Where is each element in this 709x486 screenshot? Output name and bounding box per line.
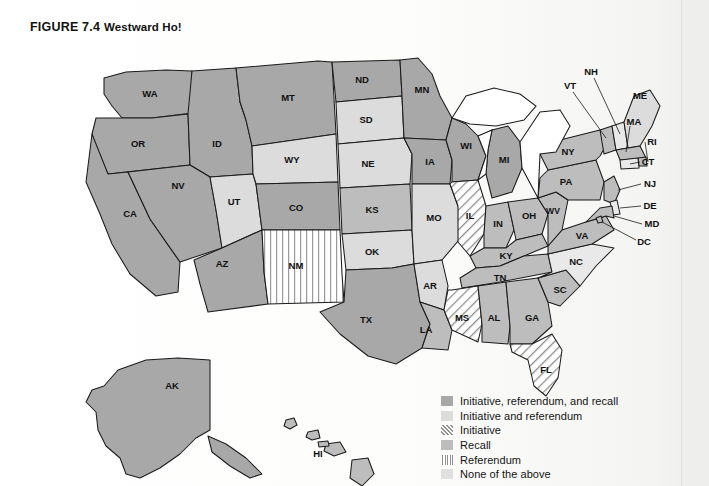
state-HI-bigisland[interactable] [350,458,374,486]
label-WY: WY [284,154,300,165]
callout-label-NH: NH [584,66,598,77]
legend-swatch-recall [441,440,453,450]
legend-label-irr: Initiative, referendum, and recall [460,395,618,407]
label-HI: HI [313,448,323,459]
label-IL: IL [466,210,475,221]
state-CT[interactable] [620,158,639,169]
label-SD: SD [359,114,372,125]
state-HI-molokai[interactable] [318,441,329,447]
legend-label-initiative: Initiative [460,424,501,436]
legend-label-none: None of the above [460,468,551,480]
callout-line-DE [620,206,641,208]
figure-caption: FIGURE 7.4Westward Ho! [30,17,182,35]
label-OK: OK [365,246,379,257]
great-lakes-superior [452,88,536,126]
state-NJ[interactable] [604,176,620,204]
legend-swatch-none [441,469,453,479]
label-KS: KS [365,204,378,215]
label-OR: OR [131,138,145,149]
label-ID: ID [212,138,222,149]
label-NE: NE [361,158,374,169]
label-NC: NC [569,256,583,267]
label-VA: VA [576,230,589,241]
callout-label-MA: MA [627,116,642,127]
callout-label-RI: RI [647,136,657,147]
callout-label-CT: CT [642,156,655,167]
legend-item-none[interactable]: None of the above [441,467,651,482]
label-WI: WI [460,140,472,151]
page-gutter [682,0,709,486]
label-TX: TX [360,314,373,325]
label-LA: LA [420,324,433,335]
callout-label-VT: VT [564,80,576,91]
state-MT[interactable] [236,61,336,146]
state-MN[interactable] [400,58,452,140]
label-IN: IN [493,218,503,229]
alaska-aleutians[interactable] [208,436,262,478]
legend-item-referendum[interactable]: Referendum [441,452,651,467]
label-SC: SC [553,284,566,295]
legend-item-recall[interactable]: Recall [441,438,651,453]
label-UT: UT [228,196,241,207]
figure-number: FIGURE 7.4 [30,20,100,34]
label-AK: AK [165,380,179,391]
state-HI-kauai[interactable] [284,418,297,429]
label-CO: CO [289,202,303,213]
callout-line-MD [614,216,642,224]
label-WV: WV [546,206,560,216]
legend-label-recall: Recall [460,439,491,451]
callout-line-NH [594,78,620,134]
callout-label-DC: DC [637,236,651,247]
callout-label-NJ: NJ [644,178,656,189]
label-NM: NM [289,260,304,271]
callout-label-DE: DE [643,200,656,211]
state-NE[interactable] [338,138,412,188]
label-MT: MT [281,92,295,103]
label-AZ: AZ [216,258,229,269]
legend-item-initiative[interactable]: Initiative [441,423,651,438]
map-legend: Initiative, referendum, and recall Initi… [441,394,651,482]
label-AL: AL [488,312,501,323]
figure-title: Westward Ho! [104,21,182,33]
label-ND: ND [355,74,369,85]
label-ME: ME [633,90,647,101]
label-FL: FL [540,364,552,375]
label-MN: MN [415,84,430,95]
label-TN: TN [494,272,507,283]
legend-swatch-irr [441,396,453,406]
label-NY: NY [561,146,575,157]
legend-label-referendum: Referendum [460,454,521,466]
legend-label-ir: Initiative and referendum [460,410,582,422]
callout-line-NJ [618,184,641,190]
label-IA: IA [425,156,435,167]
label-CA: CA [123,208,137,219]
legend-swatch-initiative [441,425,453,435]
state-HI-oahu[interactable] [306,430,320,440]
legend-item-irr[interactable]: Initiative, referendum, and recall [441,394,651,409]
label-KY: KY [499,250,513,261]
label-WA: WA [142,88,157,99]
label-MO: MO [426,212,441,223]
label-PA: PA [560,176,573,187]
label-OH: OH [522,210,536,221]
legend-swatch-referendum [441,455,453,465]
legend-swatch-ir [441,411,453,421]
callout-line-VT [573,92,606,138]
label-MI: MI [499,154,510,165]
callout-label-MD: MD [645,218,660,229]
state-AK[interactable] [86,358,210,478]
label-GA: GA [525,312,539,323]
label-MS: MS [455,312,469,323]
label-NV: NV [171,180,185,191]
legend-item-ir[interactable]: Initiative and referendum [441,409,651,424]
label-AR: AR [423,280,437,291]
